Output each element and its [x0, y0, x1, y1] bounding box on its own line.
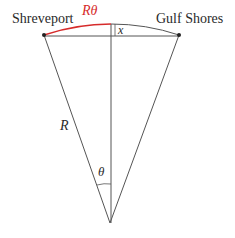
gulf-shores-point: [177, 33, 181, 37]
height-label: x: [118, 24, 123, 36]
radius-label: R: [60, 119, 69, 133]
angle-label: θ: [98, 165, 104, 178]
radius-line-right: [110, 35, 179, 223]
angle-arc: [97, 184, 111, 185]
shreveport-point: [42, 33, 46, 37]
arc-length-label: Rθ: [82, 4, 97, 18]
gulf-shores-label: Gulf Shores: [156, 12, 223, 26]
radius-line-left: [44, 35, 110, 223]
shreveport-label: Shreveport: [12, 12, 73, 26]
